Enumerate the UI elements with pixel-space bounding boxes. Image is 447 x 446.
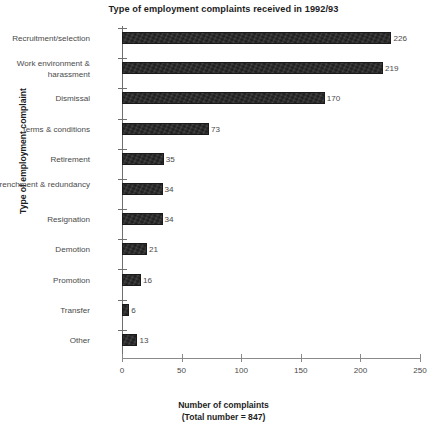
x-axis-title: Number of complaints (Total number = 847… — [0, 399, 447, 423]
category-label: Terms & conditions — [0, 125, 90, 136]
bar-value-label: 219 — [385, 64, 399, 73]
y-axis-tick — [118, 119, 127, 120]
bar — [122, 304, 129, 316]
bar-value-label: 6 — [131, 306, 136, 315]
category-label: Demotion — [0, 245, 90, 256]
bar — [122, 274, 141, 286]
x-axis-tick — [241, 354, 242, 362]
x-axis-tick — [301, 354, 302, 362]
x-axis-tick-label: 150 — [281, 366, 321, 375]
category-label: Dismissal — [0, 94, 90, 105]
x-axis-tick-label: 100 — [221, 366, 261, 375]
category-label: Work environment & harassment — [0, 59, 90, 80]
y-axis-tick — [118, 149, 127, 150]
y-axis-tick — [118, 239, 127, 240]
category-label: Retirement — [0, 155, 90, 166]
bar — [122, 92, 325, 104]
y-axis-tick — [118, 209, 127, 210]
category-label: Promotion — [0, 276, 90, 287]
bar-value-label: 16 — [143, 276, 152, 285]
bar — [122, 183, 163, 195]
category-label: Other — [0, 336, 90, 347]
bar — [122, 123, 209, 135]
x-axis-tick-label: 50 — [162, 366, 202, 375]
y-axis-tick — [118, 58, 127, 59]
bar — [122, 32, 391, 44]
x-axis-tick — [360, 354, 361, 362]
bar — [122, 243, 147, 255]
bar — [122, 153, 164, 165]
bar-value-label: 226 — [393, 34, 407, 43]
chart-title: Type of employment complaints received i… — [0, 4, 447, 14]
bar-value-label: 13 — [139, 336, 148, 345]
bar-value-label: 35 — [166, 155, 175, 164]
x-axis-line — [122, 358, 420, 359]
x-axis-title-total: (Total number = 847) — [0, 411, 447, 423]
y-axis-tick — [118, 88, 127, 89]
bar — [122, 334, 137, 346]
y-axis-tick — [118, 269, 127, 270]
x-axis-tick — [122, 354, 123, 362]
x-axis-tick — [182, 354, 183, 362]
bar — [122, 62, 383, 74]
bar-value-label: 73 — [211, 125, 220, 134]
bar-value-label: 21 — [149, 245, 158, 254]
x-axis-tick-label: 250 — [400, 366, 440, 375]
y-axis-tick — [118, 330, 127, 331]
bar-value-label: 34 — [165, 215, 174, 224]
y-axis-tick — [118, 28, 127, 29]
y-axis-tick — [118, 300, 127, 301]
category-label: Recruitment/selection — [0, 34, 90, 45]
plot-area: Recruitment/selection226Work environment… — [122, 26, 420, 358]
category-label: Retrenchment & redundancy — [0, 180, 90, 191]
bar — [122, 213, 163, 225]
bar-value-label: 34 — [165, 185, 174, 194]
x-axis-tick-label: 0 — [102, 366, 142, 375]
bar-chart: Type of employment complaints received i… — [0, 0, 447, 446]
category-label: Resignation — [0, 215, 90, 226]
x-axis-tick-label: 200 — [340, 366, 380, 375]
x-axis-tick — [420, 354, 421, 362]
category-label: Transfer — [0, 306, 90, 317]
bar-value-label: 170 — [327, 94, 341, 103]
y-axis-tick — [118, 179, 127, 180]
x-axis-title-main: Number of complaints — [0, 399, 447, 411]
